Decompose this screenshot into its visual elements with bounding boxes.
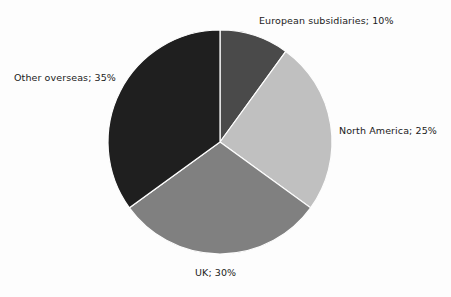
- pie-chart: European subsidiaries; 10% North America…: [0, 0, 451, 297]
- pie-label-other-overseas: Other overseas; 35%: [14, 72, 116, 84]
- pie-slice-group: [108, 30, 332, 254]
- pie-label-european-subsidiaries: European subsidiaries; 10%: [259, 15, 394, 27]
- pie-chart-canvas: [0, 0, 451, 297]
- pie-label-north-america: North America; 25%: [339, 125, 437, 137]
- pie-label-uk: UK; 30%: [195, 267, 236, 279]
